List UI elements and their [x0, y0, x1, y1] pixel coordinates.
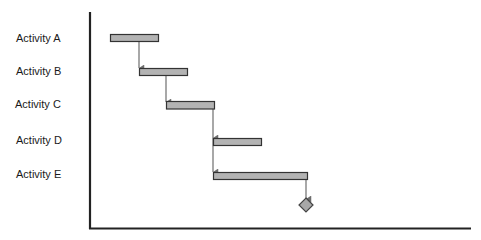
milestone-diamond-icon [299, 198, 313, 212]
bar-activity-a [111, 35, 159, 42]
activity-bars [111, 35, 308, 180]
gantt-canvas [0, 0, 481, 240]
bar-activity-e [214, 173, 308, 180]
bar-activity-c [167, 102, 215, 110]
bar-activity-d [214, 139, 262, 146]
bar-activity-b [140, 69, 188, 76]
gantt-chart: Activity A Activity B Activity C Activit… [0, 0, 481, 240]
